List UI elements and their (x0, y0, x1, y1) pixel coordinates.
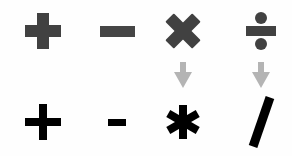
mapping-arrow-division (228, 60, 292, 90)
obelus-dot-top (255, 12, 267, 24)
obelus-bar (246, 26, 276, 36)
arrow-down-icon (174, 62, 192, 88)
obelus-icon (246, 12, 276, 50)
arrow-head (174, 72, 192, 88)
code-symbol-division (228, 96, 292, 148)
code-symbol-multiplication (150, 96, 216, 148)
minus-icon (100, 26, 135, 37)
arrow-head (252, 72, 270, 88)
hyphen-icon (108, 119, 126, 126)
asterisk-icon (166, 105, 200, 139)
code-symbol-subtraction (76, 96, 158, 148)
operator-symbol-mapping (0, 0, 292, 156)
obelus-dot-bottom (255, 38, 267, 50)
slash-icon (248, 96, 273, 148)
math-symbol-division (228, 8, 292, 54)
plus-icon (25, 104, 61, 140)
multiply-icon (165, 13, 201, 49)
mapping-arrow-multiplication (150, 60, 216, 90)
math-symbol-subtraction (76, 8, 158, 54)
arrow-down-icon (252, 62, 270, 88)
math-symbol-addition (2, 8, 84, 54)
math-symbol-multiplication (150, 8, 216, 54)
code-symbol-addition (2, 96, 84, 148)
plus-icon (25, 13, 61, 49)
